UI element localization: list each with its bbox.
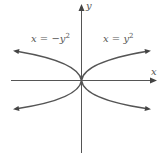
y-axis-label: y xyxy=(86,1,92,11)
equation-label-right: x = y2 xyxy=(103,34,134,44)
equation-left-exponent: 2 xyxy=(65,32,69,40)
y-axis-arrow-icon xyxy=(79,4,85,11)
x-axis-arrow-icon xyxy=(150,78,157,84)
curve-arrow-icon xyxy=(13,49,20,54)
equation-label-left: x = −y2 xyxy=(31,34,70,44)
x-axis-label: x xyxy=(151,67,157,77)
curve-arrow-icon xyxy=(13,106,20,111)
equation-right-text: x = y xyxy=(103,33,129,44)
plot-canvas xyxy=(0,0,166,161)
curve-arrow-icon xyxy=(145,49,152,54)
equation-right-exponent: 2 xyxy=(129,32,133,40)
equation-left-text: x = −y xyxy=(31,33,65,44)
curve-arrow-icon xyxy=(145,106,152,111)
